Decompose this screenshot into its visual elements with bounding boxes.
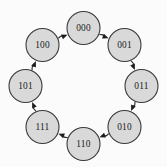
node-111[interactable]: 111 (26, 111, 59, 144)
edge-line (131, 61, 133, 65)
edge-011-to-010 (131, 102, 136, 111)
node-label: 110 (76, 139, 90, 149)
edge-100-to-000 (58, 35, 67, 40)
edge-101-to-100 (31, 61, 36, 70)
node-label: 011 (134, 81, 148, 91)
arrow-head-icon (99, 133, 105, 138)
node-label: 100 (35, 40, 50, 50)
edge-001-to-011 (130, 61, 135, 70)
node-110[interactable]: 110 (67, 128, 100, 161)
edge-line (133, 102, 135, 106)
edge-line (32, 66, 34, 70)
node-011[interactable]: 011 (125, 70, 158, 103)
edge-line (99, 35, 103, 37)
node-label: 111 (36, 122, 50, 132)
edge-000-to-001 (99, 34, 108, 39)
graph-canvas: 000001011010110111101100 (0, 0, 167, 167)
node-001[interactable]: 001 (108, 29, 141, 62)
arrow-head-icon (130, 64, 135, 70)
edge-111-to-101 (32, 102, 37, 111)
node-label: 001 (117, 40, 132, 50)
node-000[interactable]: 000 (67, 12, 100, 45)
node-label: 010 (117, 122, 132, 132)
node-label: 000 (76, 23, 91, 33)
arrow-head-icon (61, 35, 67, 40)
node-label: 101 (18, 81, 33, 91)
edge-110-to-111 (58, 134, 67, 139)
node-100[interactable]: 100 (26, 29, 59, 62)
edge-line (64, 136, 68, 138)
edge-010-to-110 (99, 133, 108, 138)
edge-line (58, 36, 62, 38)
node-101[interactable]: 101 (9, 70, 42, 103)
arrow-head-icon (32, 102, 37, 108)
edge-line (33, 108, 35, 112)
gray-code-cycle-figure: 000001011010110111101100 (0, 0, 167, 167)
node-010[interactable]: 010 (108, 111, 141, 144)
node-layer: 000001011010110111101100 (9, 12, 158, 161)
edge-line (105, 134, 109, 136)
